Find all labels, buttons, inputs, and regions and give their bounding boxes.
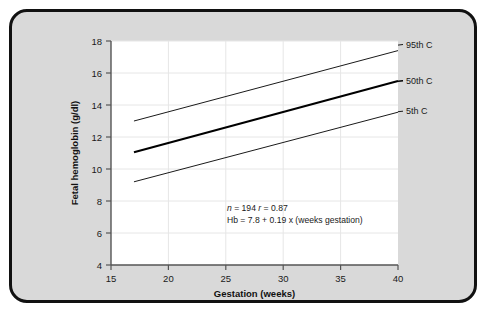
- fetal-hemoglobin-line-chart: 18 16 14 12 10 8 6 4 15 20 25 30 35 40 G…: [12, 12, 480, 306]
- y-axis-title: Fetal hemoglobin (g/dl): [69, 101, 80, 206]
- series-label-5th-centile: 5th C: [406, 106, 428, 116]
- annotation-stats-r-value: = 0.87: [261, 203, 288, 213]
- annotation-stats-n-value: = 194: [232, 203, 259, 213]
- annotation-stats: n = 194 r = 0.87: [227, 203, 288, 213]
- x-tick-label-35: 35: [335, 273, 346, 284]
- y-tick-label-18: 18: [91, 36, 102, 47]
- y-tick-label-6: 6: [97, 228, 102, 239]
- y-tick-label-8: 8: [97, 196, 102, 207]
- x-tick-label-20: 20: [163, 273, 174, 284]
- y-axis-ticks: [106, 41, 111, 265]
- y-tick-label-12: 12: [91, 132, 102, 143]
- x-tick-label-25: 25: [221, 273, 232, 284]
- annotation-regression-equation: Hb = 7.8 + 0.19 x (weeks gestation): [227, 215, 363, 225]
- series-leader-50th: [398, 81, 403, 82]
- series-label-95th-centile: 95th C: [406, 40, 433, 50]
- y-tick-label-4: 4: [97, 260, 102, 271]
- series-label-50th-centile: 50th C: [406, 76, 433, 86]
- series-leader-5th: [398, 111, 403, 112]
- plot-background: [111, 41, 398, 265]
- y-tick-label-16: 16: [91, 68, 102, 79]
- x-tick-label-40: 40: [393, 273, 404, 284]
- x-axis-title: Gestation (weeks): [214, 288, 295, 299]
- x-axis-ticks: [111, 265, 398, 270]
- x-tick-label-15: 15: [106, 273, 117, 284]
- chart-plot-area: 18 16 14 12 10 8 6 4 15 20 25 30 35 40 G…: [12, 12, 480, 306]
- y-tick-label-14: 14: [91, 100, 102, 111]
- y-tick-label-10: 10: [91, 164, 102, 175]
- figure-frame: 18 16 14 12 10 8 6 4 15 20 25 30 35 40 G…: [9, 9, 477, 303]
- series-leader-95th: [398, 45, 403, 46]
- x-tick-label-30: 30: [278, 273, 289, 284]
